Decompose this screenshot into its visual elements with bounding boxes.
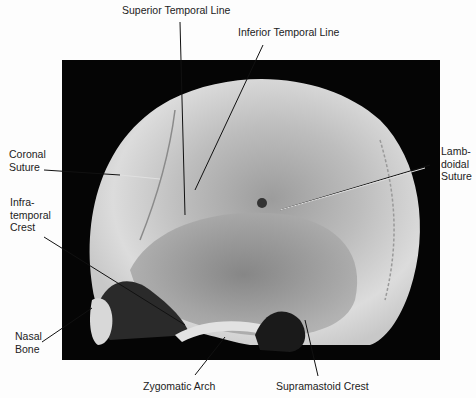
label-infratemporal-crest: Infra- temporal Crest [10, 196, 51, 234]
skull-lateral-diagram: Superior Temporal Line Inferior Temporal… [0, 0, 476, 398]
label-inferior-temporal-line: Inferior Temporal Line [238, 26, 339, 39]
label-nasal-bone: Nasal Bone [15, 330, 42, 355]
label-lambdoidal-suture: Lamb- doidal Suture [441, 145, 472, 183]
label-zygomatic-arch: Zygomatic Arch [143, 380, 215, 393]
label-superior-temporal-line: Superior Temporal Line [122, 4, 230, 17]
skull-illustration [0, 0, 476, 398]
label-supramastoid-crest: Supramastoid Crest [276, 380, 369, 393]
specimen-hook [257, 198, 267, 208]
label-coronal-suture: Coronal Suture [9, 148, 46, 173]
